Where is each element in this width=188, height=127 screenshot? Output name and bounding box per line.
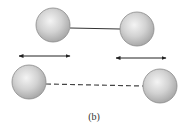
solid-bond	[70, 28, 120, 29]
molecule-diagram	[0, 0, 188, 127]
vibration-arrows	[19, 56, 166, 58]
bottom-molecule	[12, 65, 177, 103]
top-molecule	[36, 8, 154, 46]
sphere-atom	[36, 8, 70, 42]
sphere-atom	[143, 69, 177, 103]
dashed-bond	[46, 84, 143, 86]
figure-caption: (b)	[0, 111, 188, 122]
sphere-atom	[12, 65, 46, 99]
sphere-atom	[120, 12, 154, 46]
